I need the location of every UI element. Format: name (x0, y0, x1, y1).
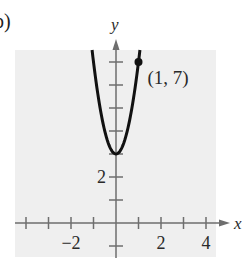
y-tick-label: 2 (97, 167, 106, 187)
point-marker (135, 58, 143, 66)
plot-area: −224 2 (1, 7) x y (0, 0, 242, 259)
x-tick-label: 2 (157, 233, 166, 253)
x-axis-label: x (233, 214, 242, 233)
x-tick-label: −2 (61, 233, 80, 253)
y-tick-labels: 2 (97, 167, 106, 187)
part-label: b) (0, 10, 11, 33)
y-axis-label: y (109, 15, 119, 34)
y-axis-arrow-icon (113, 39, 120, 50)
x-tick-label: 4 (202, 233, 211, 253)
point-label: (1, 7) (148, 67, 189, 89)
x-axis-arrow-icon (219, 220, 230, 227)
parabola-figure: b) −224 2 (1, 7) x y (0, 0, 242, 259)
